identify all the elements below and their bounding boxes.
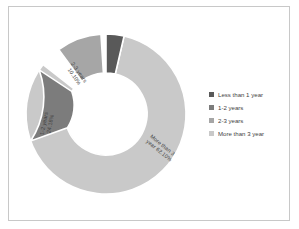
legend-label: 1-2 years [218,104,243,111]
legend-label: Less than 1 year [218,91,263,98]
legend-swatch-icon [209,105,214,110]
doughnut-plot-area: 2-3 years 10.10% 1-2 years 24.18% More t… [22,16,190,212]
legend-item-less-than-1-year[interactable]: Less than 1 year [209,88,291,101]
chart-legend: Less than 1 year 1-2 years 2-3 years Mor… [209,88,291,140]
legend-swatch-icon [209,118,214,123]
doughnut-slices [26,34,186,194]
legend-swatch-icon [209,92,214,97]
legend-label: 2-3 years [218,117,243,124]
doughnut-svg: 2-3 years 10.10% 1-2 years 24.18% More t… [22,16,190,212]
legend-swatch-icon [209,131,214,136]
legend-item-1-2-years[interactable]: 1-2 years [209,101,291,114]
legend-item-more-than-3-year[interactable]: More than 3 year [209,127,291,140]
legend-item-2-3-years[interactable]: 2-3 years [209,114,291,127]
legend-label: More than 3 year [218,130,264,137]
doughnut-chart: 2-3 years 10.10% 1-2 years 24.18% More t… [0,0,299,229]
